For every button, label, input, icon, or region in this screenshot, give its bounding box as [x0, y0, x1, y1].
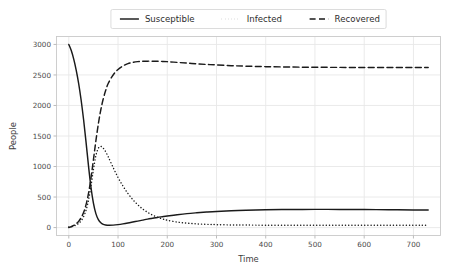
x-tick-label: 300: [210, 240, 224, 249]
x-tick-label: 100: [111, 240, 125, 249]
sir-line-chart: 0100200300400500600700 05001000150020002…: [0, 0, 469, 274]
series-line-infected: [69, 146, 428, 227]
y-tick-label: 1000: [33, 162, 52, 171]
x-tick-label: 600: [357, 240, 371, 249]
chart-figure: 0100200300400500600700 05001000150020002…: [0, 0, 469, 274]
x-tick-label: 200: [160, 240, 174, 249]
x-tick-label: 0: [67, 240, 72, 249]
y-tick-label: 3000: [33, 40, 52, 49]
y-axis-tick-labels: 050010001500200025003000: [33, 40, 52, 232]
x-axis-tick-labels: 0100200300400500600700: [67, 240, 421, 249]
y-tick-label: 2000: [33, 101, 52, 110]
y-tick-label: 2500: [33, 71, 52, 80]
chart-legend: SusceptibleInfectedRecovered: [111, 10, 386, 29]
legend-label-susceptible: Susceptible: [145, 14, 195, 24]
y-tick-label: 0: [46, 223, 51, 232]
series-line-recovered: [69, 61, 428, 227]
x-tick-label: 500: [308, 240, 322, 249]
y-tick-label: 1500: [33, 132, 52, 141]
y-tick-label: 500: [37, 193, 51, 202]
series-line-susceptible: [69, 44, 428, 225]
legend-label-recovered: Recovered: [335, 14, 380, 24]
x-tick-label: 700: [407, 240, 421, 249]
x-axis-title: Time: [237, 254, 259, 264]
y-axis-title: People: [8, 122, 18, 150]
x-tick-label: 400: [259, 240, 273, 249]
legend-label-infected: Infected: [247, 14, 282, 24]
